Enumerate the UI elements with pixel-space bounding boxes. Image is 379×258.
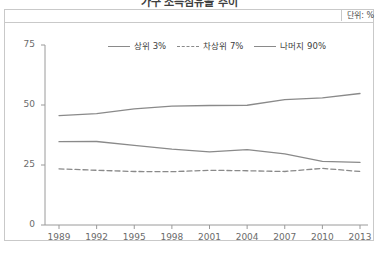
x-axis-tick-label: 2010 [305,232,339,242]
plot-area [0,0,379,258]
y-tick-marks [41,45,45,225]
series-line [59,141,360,162]
y-axis-tick-label: 0 [13,219,35,229]
x-axis-tick-label: 1989 [42,232,76,242]
axis-group [45,45,368,225]
y-axis-tick-label: 50 [13,99,35,109]
x-tick-marks [59,225,360,229]
x-axis-tick-label: 2004 [230,232,264,242]
chart-svg [0,0,379,258]
series-line [59,93,360,115]
y-axis-tick-label: 25 [13,159,35,169]
chart-page: 가구 소득점유율 추이 단위: % 상위 3% 차상위 7% 나머지 90% [0,0,379,258]
series-line [59,168,360,171]
series-lines [59,93,360,171]
x-axis-tick-label: 1995 [117,232,151,242]
x-axis-tick-label: 1992 [80,232,114,242]
x-axis-tick-label: 2013 [343,232,377,242]
x-axis-tick-label: 2007 [268,232,302,242]
y-axis-tick-label: 75 [13,39,35,49]
x-axis-tick-label: 2001 [193,232,227,242]
x-axis-tick-label: 1998 [155,232,189,242]
